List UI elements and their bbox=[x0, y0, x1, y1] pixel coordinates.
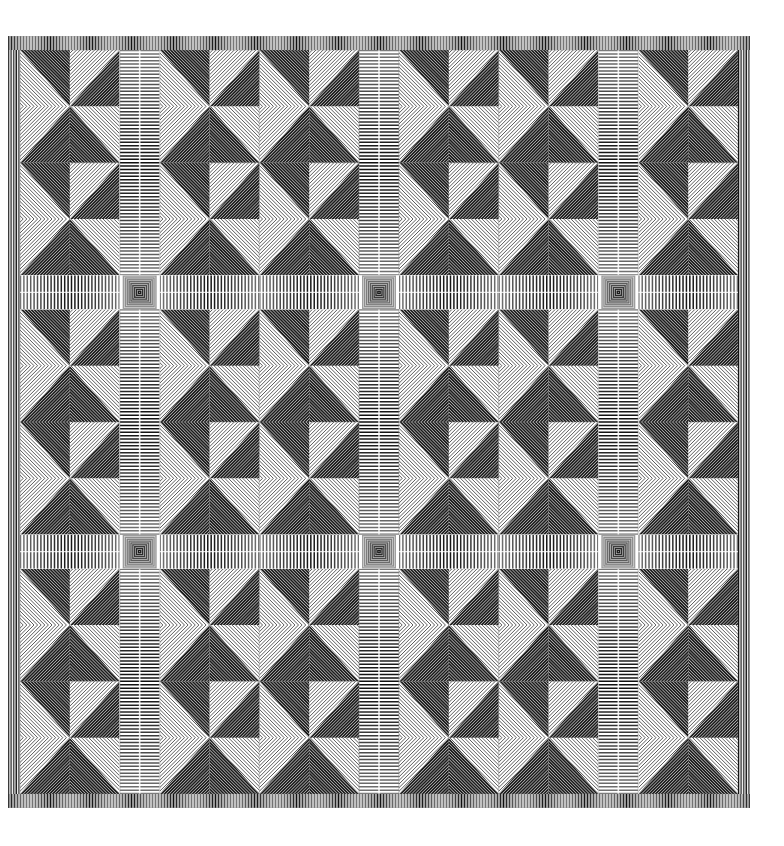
artwork-canvas: Hatched Pinwheel Quilt Pattern black-and… bbox=[0, 0, 784, 846]
quilt-pattern-canvas bbox=[0, 0, 784, 846]
